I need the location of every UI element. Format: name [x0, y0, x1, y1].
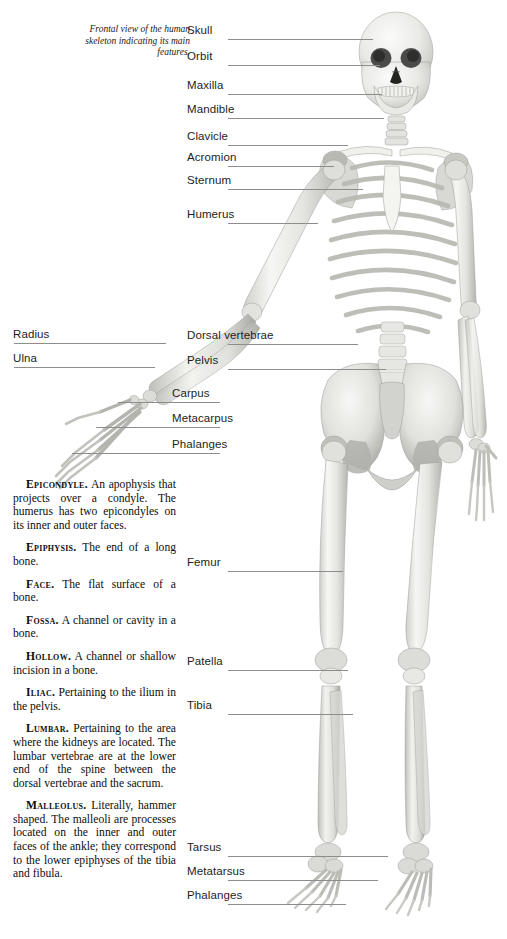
glossary-term: Epicondyle.	[26, 478, 88, 491]
glossary-entry: Hollow. A channel or shallow incision in…	[13, 650, 176, 677]
leader-line-tarsus	[228, 856, 388, 857]
label-tarsus: Tarsus	[187, 841, 221, 856]
leader-line-humerus	[228, 223, 318, 224]
sternum-bone	[383, 166, 401, 232]
left-leg	[288, 441, 348, 912]
leader-line-sternum	[228, 189, 363, 190]
label-text: Ulna	[13, 352, 37, 367]
glossary-entry: Fossa. A channel or cavity in a bone.	[13, 614, 176, 641]
glossary-term: Hollow.	[26, 650, 71, 663]
glossary-term: Epiphysis.	[26, 541, 77, 554]
label-text: Tibia	[187, 699, 212, 714]
leader-line-acromion	[228, 166, 334, 167]
leader-line-tibia	[228, 714, 353, 715]
glossary-term: Fossa.	[26, 614, 59, 627]
label-text: Maxilla	[187, 79, 224, 94]
label-text: Dorsal vertebrae	[187, 329, 274, 344]
label-orbit: Orbit	[187, 50, 212, 65]
leader-line-ulna	[14, 367, 155, 368]
vertebral-column	[377, 322, 408, 384]
label-text: Clavicle	[187, 130, 228, 145]
figure-caption: Frontal view of the human skeleton indic…	[78, 24, 190, 59]
glossary-column: Epicondyle. An apophysis that projects o…	[13, 478, 176, 881]
label-maxilla: Maxilla	[187, 79, 224, 94]
label-carpus: Carpus	[172, 387, 210, 402]
leader-line-phalanges-hand	[72, 453, 220, 454]
glossary-entry: Epicondyle. An apophysis that projects o…	[13, 478, 176, 532]
glossary-entry: Malleolus. Literally, hammer shaped. The…	[13, 799, 176, 881]
label-text: Phalanges	[172, 438, 227, 453]
label-text: Sternum	[187, 174, 231, 189]
leader-line-femur	[228, 571, 343, 572]
label-femur: Femur	[187, 556, 221, 571]
label-sternum: Sternum	[187, 174, 231, 189]
label-text: Skull	[187, 24, 212, 39]
right-leg	[386, 441, 462, 915]
label-text: Patella	[187, 655, 223, 670]
label-text: Carpus	[172, 387, 210, 402]
label-tibia: Tibia	[187, 699, 212, 714]
right-arm	[445, 160, 496, 520]
label-text: Radius	[13, 328, 49, 343]
label-metacarpus: Metacarpus	[172, 412, 233, 427]
glossary-term: Iliac.	[26, 686, 55, 699]
leader-line-radius	[14, 343, 166, 344]
label-metatarsus: Metatarsus	[187, 865, 245, 880]
label-patella: Patella	[187, 655, 223, 670]
label-pelvis: Pelvis	[187, 354, 218, 369]
glossary-entry: Iliac. Pertaining to the ilium in the pe…	[13, 686, 176, 713]
leader-line-pelvis	[228, 369, 386, 370]
label-text: Acromion	[187, 151, 236, 166]
glossary-entry: Lumbar. Pertaining to the area where the…	[13, 722, 176, 790]
leader-line-maxilla	[228, 94, 382, 95]
label-phalanges-hand: Phalanges	[172, 438, 227, 453]
label-phalanges-foot: Phalanges	[187, 889, 242, 904]
rib-cage	[330, 162, 456, 332]
leader-line-orbit	[228, 65, 380, 66]
leader-line-skull	[228, 39, 373, 40]
label-text: Humerus	[187, 208, 234, 223]
leader-line-dorsal-vertebrae	[228, 344, 358, 345]
label-skull: Skull	[187, 24, 212, 39]
glossary-term: Lumbar.	[26, 722, 69, 735]
label-text: Metacarpus	[172, 412, 233, 427]
leader-line-clavicle	[228, 145, 348, 146]
label-ulna: Ulna	[13, 352, 37, 367]
label-text: Orbit	[187, 50, 212, 65]
leader-line-carpus	[118, 402, 220, 403]
shoulder-girdle	[319, 146, 473, 210]
label-text: Metatarsus	[187, 865, 245, 880]
glossary-entry: Epiphysis. The end of a long bone.	[13, 541, 176, 568]
leader-line-phalanges-foot	[228, 904, 346, 905]
skull-bone	[359, 12, 433, 145]
label-text: Tarsus	[187, 841, 221, 856]
label-text: Mandible	[187, 103, 234, 118]
pelvis-bone	[321, 363, 463, 490]
label-acromion: Acromion	[187, 151, 236, 166]
label-dorsal-vertebrae: Dorsal vertebrae	[187, 329, 274, 344]
label-text: Femur	[187, 556, 221, 571]
leader-line-metatarsus	[228, 880, 378, 881]
label-text: Pelvis	[187, 354, 218, 369]
glossary-term: Malleolus.	[26, 799, 86, 812]
label-clavicle: Clavicle	[187, 130, 228, 145]
leader-line-metacarpus	[96, 427, 220, 428]
glossary-term: Face.	[26, 578, 54, 591]
label-mandible: Mandible	[187, 103, 234, 118]
anatomy-reference-page: Frontal view of the human skeleton indic…	[0, 0, 507, 939]
fibula-bone	[330, 690, 347, 835]
label-text: Phalanges	[187, 889, 242, 904]
femur-bone	[320, 460, 348, 656]
glossary-entry: Face. The flat surface of a bone.	[13, 578, 176, 605]
leader-line-patella	[228, 670, 348, 671]
leader-line-mandible	[228, 118, 384, 119]
label-humerus: Humerus	[187, 208, 234, 223]
label-radius: Radius	[13, 328, 49, 343]
tibia-bone	[318, 686, 340, 843]
